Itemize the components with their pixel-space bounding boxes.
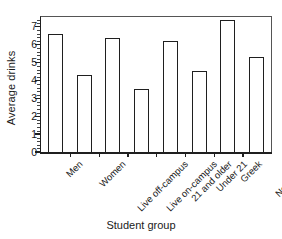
x-tick — [127, 153, 128, 157]
y-minor-tick — [37, 141, 40, 142]
y-tick-label-5: 5 — [15, 57, 37, 67]
y-minor-tick — [37, 120, 40, 121]
y-minor-tick — [37, 73, 40, 74]
y-minor-tick — [37, 52, 40, 53]
y-minor-tick — [37, 48, 40, 49]
y-minor-tick — [37, 131, 40, 132]
bar-series — [41, 17, 271, 152]
y-minor-tick — [37, 127, 40, 128]
bar-live-on-campus — [134, 89, 149, 152]
y-tick-label-2: 2 — [15, 111, 37, 121]
x-tick-label-men: Men — [64, 159, 84, 179]
y-minor-tick — [37, 84, 40, 85]
y-minor-tick — [37, 91, 40, 92]
y-minor-tick — [37, 37, 40, 38]
y-minor-tick — [37, 23, 40, 24]
y-minor-tick — [37, 123, 40, 124]
y-tick-label-1: 1 — [15, 129, 37, 139]
y-minor-tick — [37, 109, 40, 110]
y-minor-tick — [37, 70, 40, 71]
bar-live-off-campus — [105, 38, 120, 152]
bar-non-greek — [249, 57, 264, 152]
y-minor-tick — [37, 148, 40, 149]
y-minor-tick — [37, 30, 40, 31]
y-tick-label-3: 3 — [15, 93, 37, 103]
bar-women — [77, 75, 92, 152]
y-minor-tick — [37, 20, 40, 21]
y-minor-tick — [37, 138, 40, 139]
bar-under-21 — [192, 71, 207, 152]
y-tick-label-7: 7 — [15, 21, 37, 31]
y-minor-tick — [37, 102, 40, 103]
y-minor-tick — [37, 105, 40, 106]
bar-men — [48, 34, 63, 152]
x-tick-label-non-greek: Non-Greek — [274, 159, 282, 199]
y-minor-tick — [37, 55, 40, 56]
x-tick — [185, 153, 186, 157]
x-axis-title: Student group — [0, 219, 282, 231]
x-tick — [214, 153, 215, 157]
y-minor-tick — [37, 95, 40, 96]
y-tick-label-4: 4 — [15, 75, 37, 85]
y-minor-tick — [37, 88, 40, 89]
bar-chart-figure: Average drinks 01234567 MenWomenLive off… — [0, 0, 282, 239]
y-minor-tick — [37, 59, 40, 60]
bar-21-and-older — [163, 41, 178, 152]
y-minor-tick — [37, 145, 40, 146]
x-tick-label-women: Women — [97, 159, 127, 189]
y-minor-tick — [37, 66, 40, 67]
bar-greek — [220, 20, 235, 152]
y-minor-tick — [37, 41, 40, 42]
y-minor-tick — [37, 113, 40, 114]
x-tick — [70, 153, 71, 157]
x-tick — [156, 153, 157, 157]
x-tick — [99, 153, 100, 157]
y-tick-label-0: 0 — [15, 147, 37, 157]
x-tick — [242, 153, 243, 157]
y-minor-tick — [37, 77, 40, 78]
y-minor-tick — [37, 34, 40, 35]
y-tick-label-6: 6 — [15, 39, 37, 49]
